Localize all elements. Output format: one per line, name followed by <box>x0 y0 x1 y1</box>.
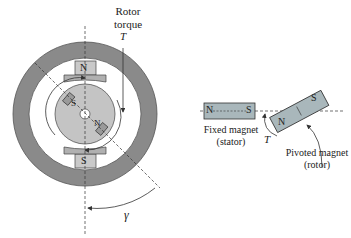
rotor-torque-label-line1: Rotor <box>108 6 148 17</box>
pivot-torque-symbol: T <box>264 134 270 145</box>
fixed-magnet-label-line1: Fixed magnet <box>196 125 266 135</box>
pivoted-magnet-north-label: N <box>278 117 285 127</box>
rotor-north-label: N <box>94 119 101 128</box>
pivoted-magnet-south-label: S <box>311 93 317 103</box>
fixed-magnet-south-label: S <box>246 105 252 115</box>
pivoted-magnet-label-line1: Pivoted magnet <box>282 148 351 158</box>
motor-diagram-canvas <box>0 0 351 238</box>
angle-gamma-arc <box>88 188 155 208</box>
fixed-magnet-north-label: N <box>206 105 213 115</box>
rotor-south-label: S <box>71 99 76 108</box>
pivoted-magnet-label-line2: (rotor) <box>282 160 351 170</box>
angle-gamma-label: γ <box>124 209 129 221</box>
stator-south-label: S <box>81 156 87 166</box>
rotor-torque-symbol: T <box>118 31 128 42</box>
fixed-magnet-label-line2: (stator) <box>196 137 266 147</box>
rotor-torque-label-line2: torque <box>108 19 148 30</box>
stator-north-label: N <box>80 63 87 73</box>
